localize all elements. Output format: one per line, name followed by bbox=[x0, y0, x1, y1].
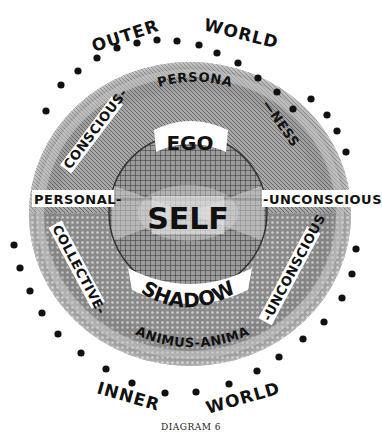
ring-dot bbox=[254, 74, 261, 81]
ring-dot bbox=[10, 241, 17, 248]
ring-dot bbox=[338, 294, 345, 301]
label-world-top: WORLD bbox=[202, 14, 281, 52]
ring-dot bbox=[57, 81, 64, 88]
label-unconscious-right: -UNCONSCIOUS bbox=[262, 190, 382, 207]
ring-dot bbox=[323, 111, 330, 118]
ring-dot bbox=[192, 388, 199, 395]
svg-text:EGO: EGO bbox=[166, 131, 213, 155]
ring-dot bbox=[74, 67, 81, 74]
ring-dot bbox=[275, 353, 282, 360]
svg-text:-UNCONSCIOUS: -UNCONSCIOUS bbox=[263, 192, 382, 207]
psyche-diagram: OUTER WORLD INNER WORLD PERSONA CONSCIOU… bbox=[0, 0, 382, 444]
ring-dot bbox=[42, 107, 49, 114]
ring-dot bbox=[26, 287, 33, 294]
ring-dot bbox=[289, 105, 296, 112]
ring-dot bbox=[153, 36, 160, 43]
diagram-caption: DIAGRAM 6 bbox=[0, 422, 382, 432]
ring-dot bbox=[234, 59, 241, 66]
ring-dot bbox=[195, 41, 202, 48]
ring-dot bbox=[161, 389, 168, 396]
label-outer: OUTER bbox=[89, 15, 161, 56]
ring-dot bbox=[307, 95, 314, 102]
ring-dot bbox=[342, 148, 349, 155]
ring-dot bbox=[77, 349, 84, 356]
ring-dot bbox=[102, 365, 109, 372]
ring-dot bbox=[348, 270, 355, 277]
ring-dot bbox=[213, 49, 220, 56]
ring-dot bbox=[273, 88, 280, 95]
svg-text:SELF: SELF bbox=[147, 201, 229, 236]
ring-dot bbox=[352, 245, 359, 252]
ring-dot bbox=[54, 330, 61, 337]
ring-dot bbox=[320, 318, 327, 325]
svg-text:PERSONAL-: PERSONAL- bbox=[34, 192, 122, 207]
ring-dot bbox=[225, 380, 232, 387]
diagram-canvas: OUTER WORLD INNER WORLD PERSONA CONSCIOU… bbox=[0, 0, 382, 444]
ring-dot bbox=[253, 367, 260, 374]
label-world-bottom: WORLD bbox=[204, 378, 283, 418]
ring-dot bbox=[173, 37, 180, 44]
ring-dot bbox=[299, 335, 306, 342]
ring-dot bbox=[333, 127, 340, 134]
label-self: SELF bbox=[147, 196, 229, 236]
ring-dot bbox=[38, 309, 45, 316]
label-personal: PERSONAL- bbox=[32, 190, 122, 207]
ring-dot bbox=[16, 264, 23, 271]
